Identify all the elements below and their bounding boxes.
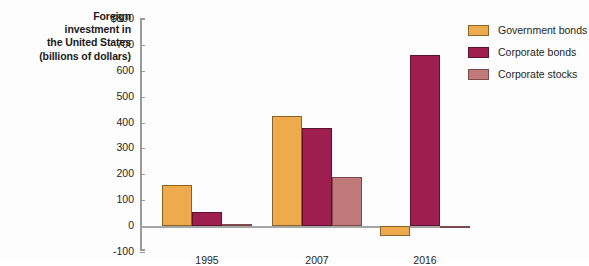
y-tick: [140, 174, 145, 175]
legend-label: Government bonds: [498, 24, 587, 36]
legend-swatch-icon: [468, 25, 489, 36]
legend-swatch-icon: [468, 69, 489, 80]
y-tick-label: 200: [74, 168, 134, 179]
y-tick-label: 100: [74, 194, 134, 205]
y-axis-title-line-4: (billions of dollars): [8, 50, 131, 63]
bar: [302, 128, 332, 226]
y-tick-label: 700: [74, 39, 134, 50]
x-axis-label: 1995: [172, 254, 242, 266]
bar: [162, 185, 192, 226]
bar: [222, 224, 252, 227]
y-axis-line: [140, 18, 142, 251]
bar: [410, 55, 440, 226]
y-tick-label: 0: [74, 220, 134, 231]
bar: [192, 212, 222, 226]
bar: [380, 226, 410, 236]
bar: [332, 177, 362, 226]
y-tick-label: 300: [74, 142, 134, 153]
legend-item: Government bonds: [468, 19, 586, 41]
legend-label: Corporate bonds: [498, 46, 576, 58]
y-tick-label: 400: [74, 117, 134, 128]
y-axis-title-line-2: investment in: [8, 23, 131, 36]
y-tick-label: 500: [74, 91, 134, 102]
legend-item: Corporate stocks: [468, 63, 586, 85]
y-tick: [140, 252, 145, 253]
bar: [440, 226, 470, 228]
legend-label: Corporate stocks: [498, 68, 577, 80]
y-tick: [140, 19, 145, 20]
y-axis-bottom-cap: [140, 249, 145, 251]
x-axis-label: 2016: [390, 254, 460, 266]
legend-item: Corporate bonds: [468, 41, 586, 63]
y-tick: [140, 200, 145, 201]
y-tick-label: -100: [74, 246, 134, 257]
y-tick: [140, 45, 145, 46]
y-tick: [140, 71, 145, 72]
y-tick: [140, 148, 145, 149]
chart-legend: Government bondsCorporate bondsCorporate…: [468, 19, 586, 85]
y-tick: [140, 97, 145, 98]
x-axis-label: 2007: [282, 254, 352, 266]
y-tick-label: 600: [74, 65, 134, 76]
bar: [272, 116, 302, 226]
plot-area: $8007006005004003002001000-100 199520072…: [140, 14, 440, 248]
legend-swatch-icon: [468, 47, 489, 58]
y-tick-label: $800: [74, 13, 134, 24]
y-tick: [140, 123, 145, 124]
